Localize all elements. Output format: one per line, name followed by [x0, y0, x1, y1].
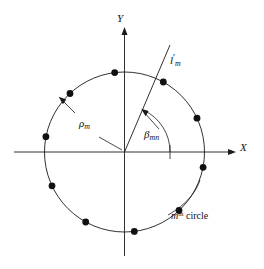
x-axis-arrowhead — [228, 149, 236, 155]
ray-label: l′m — [170, 54, 181, 68]
circle-point — [82, 219, 89, 226]
mth-circle-suffix: circle — [184, 210, 209, 221]
radius-label: ρm — [79, 118, 90, 131]
circle-point — [194, 115, 201, 122]
circle-point — [49, 182, 56, 189]
angle-label: βmn — [144, 129, 159, 142]
x-axis-label: X — [240, 142, 247, 153]
circle-point — [67, 90, 74, 97]
mth-circle-label: mth circle — [171, 211, 208, 221]
geometry-diagram-svg — [0, 0, 264, 269]
angle-subscript: mn — [149, 133, 159, 142]
y-axis-label: Y — [117, 13, 123, 24]
circle-point — [131, 228, 138, 235]
y-axis — [122, 27, 128, 256]
circle-point — [111, 69, 118, 76]
circle-point — [160, 79, 167, 86]
circle-point — [43, 133, 50, 140]
y-axis-arrowhead — [122, 27, 128, 35]
figure-canvas: Y X ρm βmn l′m mth circle — [0, 0, 264, 269]
rho-leader-arrow — [59, 97, 122, 150]
radius-subscript: m — [84, 122, 90, 131]
ray-subscript: m — [175, 59, 181, 68]
circle-point — [200, 164, 207, 171]
